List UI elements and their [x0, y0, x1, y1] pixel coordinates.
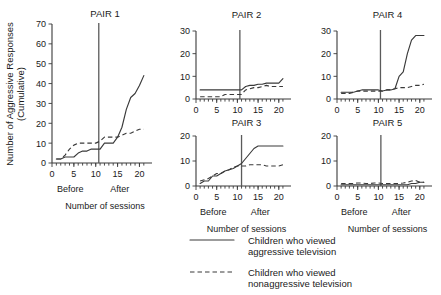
y-tick-label: 20 — [180, 49, 190, 59]
y-tick-label: 20 — [321, 49, 331, 59]
panel-pair-4: PAIR 4010203005101520 — [321, 9, 432, 115]
x-tick-label: 5 — [355, 192, 360, 202]
x-tick-label: 10 — [373, 192, 383, 202]
panel-pair-5: PAIR 50102005101520BeforeAfterNumber of … — [321, 117, 432, 234]
x-tick-label: 5 — [355, 105, 360, 115]
x-tick-label: 20 — [274, 105, 284, 115]
y-tick-label: 0 — [326, 181, 331, 191]
x-tick-label: 5 — [214, 105, 219, 115]
y-tick-label: 10 — [321, 156, 331, 166]
y-tick-label: 20 — [180, 131, 190, 141]
series-line-dashed — [56, 129, 143, 159]
x-tick-label: 15 — [394, 192, 404, 202]
legend: Children who viewedaggressive television… — [190, 235, 352, 290]
phase-label-after: After — [392, 207, 411, 217]
panel-title: PAIR 1 — [90, 8, 119, 19]
series-line-solid — [341, 36, 424, 93]
x-tick-label: 5 — [214, 192, 219, 202]
y-tick-label: 10 — [321, 72, 331, 82]
x-axis-label: Number of sessions — [348, 224, 428, 234]
y-tick-label: 30 — [321, 26, 331, 36]
panel-pair-3: PAIR 30102005101520BeforeAfterNumber of … — [180, 117, 291, 234]
x-tick-label: 0 — [334, 105, 339, 115]
y-axis-label-group: Number of Aggressive Responses(Cumulativ… — [4, 22, 26, 166]
x-tick-label: 15 — [253, 105, 263, 115]
x-tick-label: 20 — [274, 192, 284, 202]
x-axis-label: Number of sessions — [207, 224, 287, 234]
y-tick-label: 0 — [185, 94, 190, 104]
x-tick-label: 15 — [394, 105, 404, 115]
phase-label-after: After — [251, 207, 270, 217]
x-tick-label: 0 — [193, 192, 198, 202]
y-tick-label: 70 — [36, 19, 46, 29]
phase-label-before: Before — [341, 207, 368, 217]
y-tick-label: 30 — [180, 26, 190, 36]
y-tick-label: 0 — [326, 94, 331, 104]
series-line-solid — [56, 76, 143, 159]
series-line-solid — [200, 79, 283, 90]
x-tick-label: 20 — [415, 105, 425, 115]
y-tick-label: 0 — [41, 158, 46, 168]
y-tick-label: 10 — [36, 139, 46, 149]
y-tick-label: 0 — [185, 181, 190, 191]
legend-label-line2: aggressive television — [248, 246, 336, 257]
x-tick-label: 10 — [91, 169, 101, 179]
y-tick-label: 10 — [180, 72, 190, 82]
legend-label-line1: Children who viewed — [248, 235, 336, 246]
panel-title: PAIR 4 — [373, 9, 402, 20]
series-line-dashed — [200, 85, 283, 96]
y-tick-label: 60 — [36, 39, 46, 49]
x-tick-label: 0 — [49, 169, 54, 179]
x-tick-label: 10 — [232, 192, 242, 202]
x-tick-label: 20 — [134, 169, 144, 179]
legend-label-line1: Children who viewed — [248, 267, 336, 278]
x-tick-label: 10 — [373, 105, 383, 115]
x-tick-label: 0 — [193, 105, 198, 115]
figure-aggressive-responses: PAIR 101020304050607005101520BeforeAfter… — [0, 0, 441, 295]
panel-pair-1: PAIR 101020304050607005101520BeforeAfter… — [36, 8, 152, 211]
chart-canvas: PAIR 101020304050607005101520BeforeAfter… — [0, 0, 441, 295]
y-axis-label-line2: (Cumulative) — [15, 67, 26, 121]
y-tick-label: 20 — [36, 119, 46, 129]
x-tick-label: 0 — [334, 192, 339, 202]
phase-label-before: Before — [57, 184, 84, 194]
panel-title: PAIR 5 — [373, 117, 402, 128]
legend-label-line2: nonaggressive television — [248, 278, 352, 289]
x-tick-label: 15 — [253, 192, 263, 202]
y-axis-label-line1: Number of Aggressive Responses — [4, 22, 15, 166]
x-tick-label: 5 — [71, 169, 76, 179]
y-tick-label: 50 — [36, 59, 46, 69]
panel-title: PAIR 3 — [232, 117, 261, 128]
x-tick-label: 15 — [113, 169, 123, 179]
y-tick-label: 20 — [321, 131, 331, 141]
phase-label-after: After — [110, 184, 129, 194]
phase-label-before: Before — [200, 207, 227, 217]
y-tick-label: 30 — [36, 99, 46, 109]
y-tick-label: 10 — [180, 156, 190, 166]
x-axis-label: Number of sessions — [65, 201, 145, 211]
panel-title: PAIR 2 — [232, 9, 261, 20]
panel-pair-2: PAIR 2010203005101520 — [180, 9, 291, 115]
x-tick-label: 20 — [415, 192, 425, 202]
y-tick-label: 40 — [36, 79, 46, 89]
x-tick-label: 10 — [232, 105, 242, 115]
